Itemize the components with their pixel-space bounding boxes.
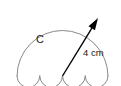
measurement-label: 4 cm (83, 47, 104, 58)
figure-canvas: C 4 cm (0, 0, 121, 86)
geometry-figure: C 4 cm (0, 0, 121, 86)
scallop-arc-2 (40, 76, 63, 86)
region-label: C (36, 33, 44, 45)
scallop-arc-1 (17, 76, 40, 86)
radius-arrowhead-icon (89, 18, 98, 30)
scallop-arc-3 (63, 76, 86, 86)
scallop-arc-4 (85, 76, 108, 86)
